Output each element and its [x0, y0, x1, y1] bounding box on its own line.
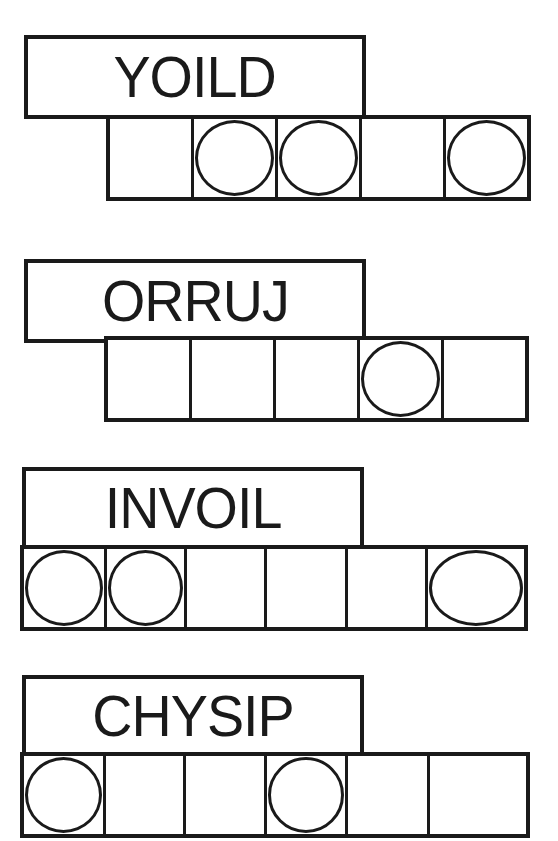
answer-cell-input[interactable] — [446, 119, 527, 197]
scrambled-word: ORRUJ — [102, 272, 289, 330]
answer-cell-input[interactable] — [360, 340, 441, 418]
answer-cell[interactable] — [444, 340, 525, 418]
answer-cell-input[interactable] — [187, 549, 264, 627]
answer-cell[interactable] — [430, 756, 526, 834]
scrambled-word: YOILD — [114, 48, 276, 106]
scrambled-word-box: ORRUJ — [24, 259, 366, 343]
answer-cell[interactable] — [267, 549, 348, 627]
answer-cell-input[interactable] — [267, 549, 345, 627]
answer-cells — [106, 115, 531, 201]
answer-cell-input[interactable] — [24, 756, 103, 834]
answer-cell[interactable] — [186, 756, 267, 834]
answer-cell-input[interactable] — [24, 549, 104, 627]
answer-cell-input[interactable] — [107, 549, 184, 627]
answer-cell-input[interactable] — [348, 549, 425, 627]
answer-cells — [104, 336, 529, 422]
scrambled-word-box: YOILD — [24, 35, 366, 119]
answer-cells — [20, 752, 530, 838]
answer-cell-input[interactable] — [194, 119, 275, 197]
answer-cell[interactable] — [276, 340, 360, 418]
answer-cell[interactable] — [348, 756, 430, 834]
answer-cells — [20, 545, 528, 631]
answer-cell-circled[interactable] — [24, 756, 106, 834]
scrambled-word-box: INVOIL — [22, 467, 364, 549]
answer-cell-circled[interactable] — [428, 549, 524, 627]
answer-cell[interactable] — [108, 340, 192, 418]
answer-cell-input[interactable] — [348, 756, 427, 834]
answer-cell-circled[interactable] — [194, 119, 278, 197]
answer-cell-circled[interactable] — [24, 549, 107, 627]
answer-cell-input[interactable] — [192, 340, 273, 418]
answer-cell-input[interactable] — [186, 756, 264, 834]
answer-cell-input[interactable] — [110, 119, 191, 197]
answer-cell-input[interactable] — [444, 340, 525, 418]
answer-cell-circled[interactable] — [107, 549, 187, 627]
scrambled-word: INVOIL — [105, 479, 282, 537]
answer-cell-input[interactable] — [278, 119, 359, 197]
answer-cell[interactable] — [362, 119, 446, 197]
answer-cell-input[interactable] — [267, 756, 345, 834]
scrambled-word-box: CHYSIP — [22, 675, 364, 757]
answer-cell[interactable] — [106, 756, 186, 834]
answer-cell-input[interactable] — [362, 119, 443, 197]
answer-cell[interactable] — [192, 340, 276, 418]
answer-cell-circled[interactable] — [267, 756, 348, 834]
answer-cell-input[interactable] — [430, 756, 526, 834]
answer-cell-circled[interactable] — [360, 340, 444, 418]
answer-cell-input[interactable] — [428, 549, 524, 627]
answer-cell[interactable] — [187, 549, 267, 627]
answer-cell[interactable] — [110, 119, 194, 197]
answer-cell-input[interactable] — [276, 340, 357, 418]
answer-cell-circled[interactable] — [278, 119, 362, 197]
answer-cell[interactable] — [348, 549, 428, 627]
answer-cell-circled[interactable] — [446, 119, 527, 197]
answer-cell-input[interactable] — [108, 340, 189, 418]
scrambled-word: CHYSIP — [92, 687, 294, 745]
answer-cell-input[interactable] — [106, 756, 183, 834]
